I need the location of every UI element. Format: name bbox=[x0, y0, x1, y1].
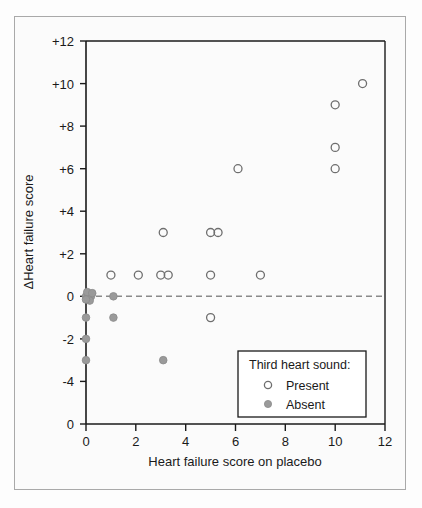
x-ticks bbox=[86, 424, 385, 431]
data-point-present bbox=[256, 271, 264, 279]
data-point-absent bbox=[110, 314, 118, 322]
y-tick-label: +10 bbox=[52, 77, 74, 92]
y-tick-label: 0 bbox=[67, 289, 74, 304]
scatter-plot: +12 +10 +8 +6 +4 +2 0 -2 -4 0 0 2 4 6 bbox=[0, 0, 422, 508]
data-point-absent bbox=[82, 356, 90, 364]
series-absent-points bbox=[82, 288, 167, 364]
data-point-present bbox=[164, 271, 172, 279]
data-point-present bbox=[331, 165, 339, 173]
y-tick-labels: +12 +10 +8 +6 +4 +2 0 -2 -4 0 bbox=[52, 34, 74, 432]
x-tick-label: 6 bbox=[232, 434, 239, 449]
y-tick-label: +4 bbox=[59, 204, 74, 219]
data-point-present bbox=[234, 165, 242, 173]
y-tick-label: +6 bbox=[59, 162, 74, 177]
data-point-absent bbox=[88, 289, 96, 297]
x-tick-label: 0 bbox=[82, 434, 89, 449]
x-tick-label: 10 bbox=[328, 434, 342, 449]
y-tick-label: 0 bbox=[67, 417, 74, 432]
y-tick-label: +2 bbox=[59, 247, 74, 262]
y-tick-label: -4 bbox=[62, 374, 74, 389]
data-point-present bbox=[331, 143, 339, 151]
data-point-present bbox=[331, 101, 339, 109]
data-point-present bbox=[207, 314, 215, 322]
x-tick-label: 2 bbox=[132, 434, 139, 449]
legend: Third heart sound: Present Absent bbox=[238, 351, 366, 417]
x-tick-label: 8 bbox=[282, 434, 289, 449]
figure-container: +12 +10 +8 +6 +4 +2 0 -2 -4 0 0 2 4 6 bbox=[0, 0, 422, 508]
legend-absent-label: Absent bbox=[286, 398, 325, 412]
data-point-absent bbox=[82, 335, 90, 343]
data-point-present bbox=[359, 80, 367, 88]
y-axis-title: ΔHeart failure score bbox=[21, 175, 36, 290]
data-point-absent bbox=[82, 296, 90, 304]
x-axis-title: Heart failure score on placebo bbox=[148, 454, 321, 469]
y-tick-label: +8 bbox=[59, 119, 74, 134]
x-tick-label: 4 bbox=[182, 434, 189, 449]
series-present-points bbox=[107, 80, 367, 322]
data-point-present bbox=[207, 271, 215, 279]
data-point-present bbox=[207, 229, 215, 237]
data-point-present bbox=[214, 229, 222, 237]
legend-absent-marker-icon bbox=[264, 400, 271, 407]
y-tick-label: +12 bbox=[52, 34, 74, 49]
y-ticks bbox=[80, 41, 86, 424]
data-point-present bbox=[157, 271, 165, 279]
data-point-present bbox=[134, 271, 142, 279]
x-tick-label: 12 bbox=[378, 434, 392, 449]
legend-present-label: Present bbox=[286, 379, 330, 393]
data-point-absent bbox=[110, 293, 118, 301]
data-point-absent bbox=[82, 314, 90, 322]
legend-title: Third heart sound: bbox=[249, 358, 350, 372]
data-point-absent bbox=[159, 356, 167, 364]
data-point-present bbox=[107, 271, 115, 279]
x-tick-labels: 0 2 4 6 8 10 12 bbox=[82, 434, 392, 449]
y-tick-label: -2 bbox=[62, 332, 74, 347]
data-point-present bbox=[159, 229, 167, 237]
